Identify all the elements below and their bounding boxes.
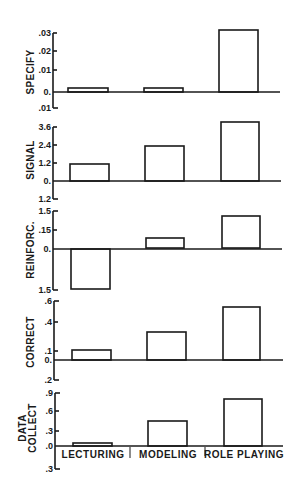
bar-modeling [144,88,183,92]
tick-label: .4 [44,317,52,327]
bar-modeling [148,421,187,446]
bar-role-playing [223,307,260,360]
tick-label: 1.2 [38,158,51,168]
tick-label: .3 [45,426,53,436]
tick-label: .0 [45,441,53,451]
tick-label: 0. [43,87,51,97]
tick-label: 1.5 [38,206,51,216]
tick-label: .6 [45,406,53,416]
category-label-role-playing: ROLE PLAYING [204,449,284,460]
bar-lecturing [72,350,111,360]
tick-label: .3 [45,464,53,474]
y-axis-title-reinforc: REINFORC. [25,221,36,279]
bar-lecturing [70,164,109,181]
tick-label: 0. [43,176,51,186]
bar-role-playing [224,399,262,446]
bar-modeling [146,238,184,248]
tick-labels: .03 .02 .01 0. .01 3.6 2.4 1.2 0. 1.2 1.… [38,28,53,474]
tick-label: .2 [44,375,52,385]
tick-label: .02 [38,46,51,56]
y-axis-title-correct: CORRECT [25,316,36,368]
tick-label: .01 [38,103,51,113]
y-axis-title-specify: SPECIFY [25,50,36,95]
tick-label: 1.5 [38,285,51,295]
category-label-modeling: MODELING [139,449,197,460]
y-axis-titles: SPECIFY SIGNAL REINFORC. CORRECT DATA CO… [17,50,38,453]
tick-label: .01 [38,65,51,75]
tick-label: 3.6 [38,122,51,132]
bar-modeling [147,332,186,360]
bar-role-playing [222,216,260,248]
bar-lecturing [73,443,112,446]
tick-label: .9 [45,388,53,398]
panel-reinforc [53,211,282,290]
bar-role-playing [219,30,258,92]
panel-signal [53,122,281,199]
tick-label: 1.2 [38,194,51,204]
panel-specify [53,30,280,108]
y-axis-title-collect: COLLECT [27,403,38,452]
category-labels: LECTURING MODELING ROLE PLAYING [62,449,284,460]
bar-role-playing [221,122,259,181]
category-label-lecturing: LECTURING [62,449,125,460]
tick-label: .15 [38,225,51,235]
tick-label: 0. [43,244,51,254]
multi-panel-bar-chart: .03 .02 .01 0. .01 3.6 2.4 1.2 0. 1.2 1.… [0,0,297,501]
tick-label: 0. [44,355,52,365]
tick-label: 2.4 [38,140,51,150]
bar-modeling [145,146,184,181]
bar-lecturing [71,249,110,289]
tick-label: .6 [44,296,52,306]
tick-label: .03 [38,28,51,38]
bar-lecturing [68,88,108,92]
panel-correct [54,301,283,380]
y-axis-title-signal: SIGNAL [25,140,36,180]
